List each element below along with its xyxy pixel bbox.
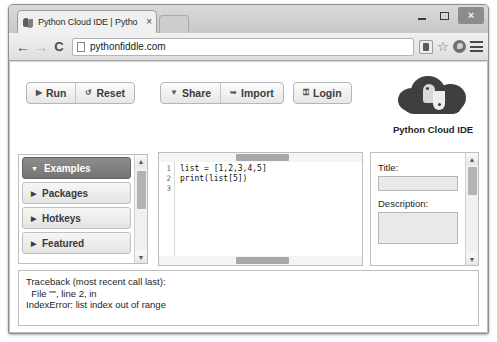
browser-titlebar: Python Cloud IDE | Pytho × × [9,5,488,33]
brand-block: Python Cloud IDE [387,74,479,135]
python-favicon-icon [23,17,34,28]
scrollbar-thumb[interactable] [236,154,289,161]
share-button[interactable]: ▼ Share [161,83,221,103]
console-line: IndexError: list index out of range [26,299,471,311]
address-bar[interactable]: pythonfiddle.com [72,38,414,56]
chevron-right-icon: ▶ [31,215,36,222]
reset-icon: ↺ [85,89,92,97]
editor-horizontal-scrollbar-bottom[interactable] [159,256,362,265]
share-import-group: ▼ Share ➥ Import [160,82,284,104]
description-field-label: Description: [378,198,458,209]
minimize-button[interactable] [412,8,431,23]
hamburger-menu-icon[interactable] [470,41,483,52]
import-button[interactable]: ➥ Import [221,83,283,103]
line-number-gutter: 1 2 3 [159,162,175,256]
scroll-down-icon[interactable]: ▼ [466,253,478,265]
run-button-label: Run [46,87,66,99]
import-button-label: Import [241,87,274,99]
brand-label: Python Cloud IDE [387,124,479,135]
import-arrow-icon: ➥ [230,89,237,97]
sidebar-item-examples[interactable]: ▼ Examples [22,157,131,179]
details-scrollbar[interactable]: ▲ ▼ [465,153,478,265]
sidebar-item-packages[interactable]: ▶ Packages [22,182,131,204]
reset-button-label: Reset [96,87,125,99]
play-icon: ▶ [36,89,42,97]
login-button-label: Login [313,87,342,99]
chevron-right-icon: ▶ [31,190,36,197]
sidebar-item-label: Examples [44,163,91,174]
details-fields: Title: Description: [371,153,465,265]
title-input[interactable] [378,176,458,191]
page-document-icon [77,42,85,52]
extension-icon[interactable] [419,40,433,54]
login-button[interactable]: ⚿ Login [294,83,351,103]
python-cloud-logo-icon [398,74,468,122]
lock-icon: ⚿ [303,89,309,97]
chevron-right-icon: ▶ [31,240,36,247]
sidebar-item-label: Hotkeys [42,213,81,224]
browser-tab-title: Python Cloud IDE | Pytho [38,17,144,27]
sidebar-item-label: Featured [42,238,84,249]
address-bar-url: pythonfiddle.com [90,41,166,52]
reload-icon[interactable]: C [50,38,68,56]
run-reset-group: ▶ Run ↺ Reset [26,82,135,104]
browser-tab[interactable]: Python Cloud IDE | Pytho × [17,10,157,33]
browser-window: Python Cloud IDE | Pytho × × ← → C pytho… [8,4,489,334]
console-line: Traceback (most recent call last): [26,276,471,288]
scrollbar-thumb[interactable] [236,257,289,264]
code-text[interactable]: list = [1,2,3,4,5] print(list[5]) [175,162,362,256]
scrollbar-thumb[interactable] [468,167,477,195]
page-content: ▶ Run ↺ Reset ▼ Share ➥ Import [9,62,488,333]
run-button[interactable]: ▶ Run [27,83,76,103]
scroll-down-icon[interactable]: ▼ [135,251,147,263]
scrollbar-thumb[interactable] [137,171,146,209]
console-output[interactable]: Traceback (most recent call last): File … [18,270,479,326]
new-tab-button[interactable] [159,15,189,33]
title-field-label: Title: [378,162,458,173]
scroll-up-icon[interactable]: ▲ [466,153,478,165]
sidebar-item-featured[interactable]: ▶ Featured [22,232,131,254]
chevron-down-icon: ▼ [170,89,178,97]
editor-horizontal-scrollbar-top[interactable] [159,153,362,162]
sidebar-scrollbar[interactable]: ▲ ▼ [134,155,147,263]
forward-arrow-icon[interactable]: → [32,38,50,56]
share-button-label: Share [182,87,211,99]
browser-action-icons: ☆ [419,40,483,54]
sidebar-item-label: Packages [42,188,88,199]
sidebar-list: ▼ Examples ▶ Packages ▶ Hotkeys ▶ Featur… [19,155,134,259]
sidebar-item-hotkeys[interactable]: ▶ Hotkeys [22,207,131,229]
maximize-button[interactable] [435,8,454,23]
browser-navbar: ← → C pythonfiddle.com ☆ [9,33,488,61]
sidebar-panel: ▼ Examples ▶ Packages ▶ Hotkeys ▶ Featur… [18,154,148,264]
tab-close-icon[interactable]: × [146,17,152,27]
console-line: File "", line 2, in [26,288,471,300]
bookmark-star-icon[interactable]: ☆ [437,40,449,53]
description-textarea[interactable] [378,212,458,244]
code-editor-panel: 1 2 3 list = [1,2,3,4,5] print(list[5]) [158,152,363,266]
profile-avatar-icon[interactable] [453,40,466,53]
code-area[interactable]: 1 2 3 list = [1,2,3,4,5] print(list[5]) [159,162,362,256]
close-window-button[interactable]: × [458,7,484,24]
workspace: ▼ Examples ▶ Packages ▶ Hotkeys ▶ Featur… [18,152,479,266]
reset-button[interactable]: ↺ Reset [76,83,134,103]
chevron-down-icon: ▼ [31,165,38,172]
window-controls: × [412,7,484,24]
login-group: ⚿ Login [293,82,352,104]
details-panel: Title: Description: ▲ ▼ [370,152,479,266]
scroll-up-icon[interactable]: ▲ [135,155,147,167]
back-arrow-icon[interactable]: ← [14,38,32,56]
